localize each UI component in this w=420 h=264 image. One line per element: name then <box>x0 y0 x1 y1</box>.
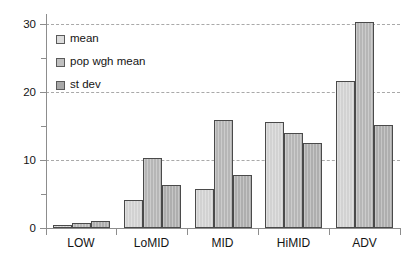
x-axis <box>40 228 401 229</box>
x-tick-4 <box>329 229 330 235</box>
x-tick-0 <box>46 229 47 235</box>
bar-mid-mean <box>195 189 214 228</box>
x-tick-5 <box>400 229 401 235</box>
legend-label-pop-wgh-mean: pop wgh mean <box>70 56 145 68</box>
y-axis-label-0: 0 <box>14 223 36 235</box>
x-axis-label-mid: MID <box>187 237 258 249</box>
y-axis-label-10: 10 <box>14 155 36 167</box>
legend-label-st-dev: st dev <box>70 79 101 91</box>
legend-label-mean: mean <box>70 33 99 45</box>
legend-item-pop-wgh-mean: pop wgh mean <box>56 53 145 71</box>
x-tick-2 <box>187 229 188 235</box>
legend-swatch-icon-st-dev <box>56 81 65 90</box>
legend-swatch-icon-mean <box>56 35 65 44</box>
bar-lomid-st-dev <box>162 185 181 228</box>
y-axis-label-30: 30 <box>14 19 36 31</box>
y-axis-label-20: 20 <box>14 87 36 99</box>
bar-chart: 30 20 10 0 LOW LoMID MID HiMID ADV mean … <box>0 0 420 264</box>
legend: mean pop wgh mean st dev <box>56 30 145 99</box>
bar-adv-st-dev <box>374 125 393 228</box>
bar-adv-mean <box>336 81 355 228</box>
bar-mid-st-dev <box>233 175 252 228</box>
bar-himid-st-dev <box>303 143 322 228</box>
bar-himid-mean <box>265 122 284 228</box>
bar-himid-pop-wgh-mean <box>284 133 303 228</box>
x-axis-label-low: LOW <box>46 237 116 249</box>
bar-lomid-pop-wgh-mean <box>143 158 162 228</box>
bar-mid-pop-wgh-mean <box>214 120 233 228</box>
bar-low-mean <box>53 225 72 228</box>
bar-lomid-mean <box>124 200 143 228</box>
legend-swatch-icon-pop-wgh-mean <box>56 58 65 67</box>
x-tick-3 <box>258 229 259 235</box>
bar-low-pop-wgh-mean <box>72 223 91 228</box>
x-axis-label-himid: HiMID <box>258 237 329 249</box>
x-tick-1 <box>116 229 117 235</box>
bar-adv-pop-wgh-mean <box>355 22 374 228</box>
bar-low-st-dev <box>91 221 110 228</box>
x-axis-label-adv: ADV <box>329 237 400 249</box>
legend-item-mean: mean <box>56 30 145 48</box>
legend-item-st-dev: st dev <box>56 76 145 94</box>
x-axis-label-lomid: LoMID <box>116 237 187 249</box>
